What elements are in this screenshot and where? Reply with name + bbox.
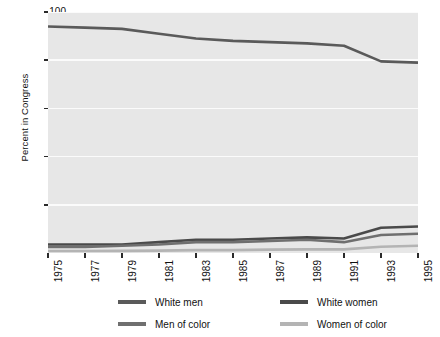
- legend-item-label: White men: [155, 297, 203, 308]
- x-axis-tick-label: 1993: [386, 260, 397, 282]
- x-axis-tick-label: 1987: [275, 260, 286, 282]
- x-axis-tick-mark: [343, 253, 345, 258]
- x-axis-tick-label: 1983: [201, 260, 212, 282]
- legend-item-label: White women: [317, 297, 378, 308]
- x-axis-tick-mark: [232, 253, 234, 258]
- legend-item-label: Women of color: [317, 319, 387, 330]
- x-axis-tick-label: 1995: [423, 260, 434, 282]
- series-lines: [48, 12, 418, 253]
- legend-line-icon: [118, 300, 146, 304]
- chart-legend: White menWhite womenMen of colorWomen of…: [118, 294, 418, 334]
- x-axis-tick-label: 1977: [90, 260, 101, 282]
- series-line: [48, 26, 418, 62]
- x-axis-tick-mark: [47, 253, 49, 258]
- x-axis-tick-mark: [84, 253, 86, 258]
- x-axis-tick-label: 1979: [127, 260, 138, 282]
- legend-item[interactable]: Women of color: [280, 316, 387, 332]
- legend-item-label: Men of color: [155, 319, 210, 330]
- legend-line-icon: [280, 322, 308, 326]
- legend-line-icon: [118, 322, 146, 326]
- x-axis-tick-mark: [195, 253, 197, 258]
- x-axis-tick-mark: [380, 253, 382, 258]
- x-axis-tick-mark: [121, 253, 123, 258]
- legend-item[interactable]: White men: [118, 294, 203, 310]
- x-axis-tick-label: 1989: [312, 260, 323, 282]
- line-chart: Percent in Congress 20406080100 19751977…: [0, 0, 440, 337]
- x-axis-tick-mark: [306, 253, 308, 258]
- x-axis-tick-label: 1981: [164, 260, 175, 282]
- x-axis-tick-label: 1985: [238, 260, 249, 282]
- x-axis-tick-mark: [417, 253, 419, 258]
- plot-area: [48, 12, 418, 253]
- legend-line-icon: [280, 300, 308, 304]
- legend-item[interactable]: Men of color: [118, 316, 210, 332]
- x-axis-tick-mark: [269, 253, 271, 258]
- x-axis-tick-label: 1975: [53, 260, 64, 282]
- x-axis-tick-mark: [158, 253, 160, 258]
- legend-item[interactable]: White women: [280, 294, 378, 310]
- x-axis-tick-label: 1991: [349, 260, 360, 282]
